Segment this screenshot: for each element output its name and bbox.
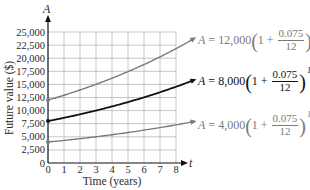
curves — [46, 37, 197, 144]
eq-principal: 12,000 — [218, 33, 251, 48]
equation-label-12000: A = 12,000(1 + 0.07512)12t — [198, 28, 310, 52]
eq-numerator: 0.075 — [278, 28, 305, 41]
eq-one-plus: 1 + — [252, 118, 268, 133]
svg-text:12,500: 12,500 — [16, 92, 45, 103]
eq-exponent: 12t — [307, 65, 310, 75]
eq-one-plus: 1 + — [252, 74, 268, 89]
eq-denominator: 12 — [285, 41, 296, 53]
y-axis-label: Future value ($) — [3, 61, 16, 135]
svg-text:22,500: 22,500 — [16, 40, 45, 51]
svg-text:17,500: 17,500 — [16, 66, 45, 77]
svg-text:10,000: 10,000 — [16, 105, 45, 116]
eq-paren: ) — [299, 70, 306, 92]
eq-var: A — [198, 33, 205, 48]
eq-paren: ( — [245, 70, 252, 92]
svg-text:5,000: 5,000 — [21, 131, 45, 142]
svg-text:3: 3 — [93, 164, 98, 175]
eq-var: A — [198, 74, 205, 89]
svg-text:7,500: 7,500 — [21, 118, 45, 129]
svg-text:0: 0 — [45, 164, 50, 175]
svg-text:2: 2 — [77, 164, 82, 175]
svg-text:4: 4 — [109, 164, 115, 175]
eq-paren: ) — [299, 114, 306, 136]
svg-text:5: 5 — [125, 164, 130, 175]
y-axis-variable: A — [42, 2, 51, 16]
svg-text:7: 7 — [157, 164, 162, 175]
eq-fraction: 0.07512 — [278, 28, 305, 52]
eq-var: A — [198, 118, 205, 133]
eq-principal: 8,000 — [218, 74, 245, 89]
grid-lines — [48, 32, 176, 163]
svg-text:20,000: 20,000 — [16, 53, 45, 64]
eq-equals: = — [208, 118, 215, 133]
eq-paren: ( — [251, 29, 258, 51]
svg-text:8: 8 — [173, 164, 178, 175]
svg-text:6: 6 — [141, 164, 146, 175]
eq-one-plus: 1 + — [258, 33, 274, 48]
eq-fraction: 0.07512 — [272, 113, 299, 137]
svg-text:2,500: 2,500 — [21, 144, 45, 155]
svg-text:25,000: 25,000 — [16, 27, 45, 38]
svg-text:0: 0 — [40, 158, 45, 169]
eq-numerator: 0.075 — [272, 113, 299, 126]
svg-text:15,000: 15,000 — [16, 79, 45, 90]
svg-text:1: 1 — [61, 164, 66, 175]
x-tick-labels: 012345678 — [45, 164, 178, 175]
x-axis-label: Time (years) — [83, 175, 142, 188]
eq-exponent: 12t — [307, 109, 310, 119]
eq-fraction: 0.07512 — [272, 69, 299, 93]
equation-label-4000: A = 4,000(1 + 0.07512)12t — [198, 113, 310, 137]
eq-paren: ( — [245, 114, 252, 136]
y-tick-labels: 02,5005,0007,50010,00012,50015,00017,500… — [16, 27, 45, 169]
eq-denominator: 12 — [279, 126, 290, 138]
eq-denominator: 12 — [279, 82, 290, 94]
equation-label-8000: A = 8,000(1 + 0.07512)12t — [198, 69, 310, 93]
eq-equals: = — [208, 33, 215, 48]
eq-paren: ) — [305, 29, 310, 51]
eq-equals: = — [208, 74, 215, 89]
eq-principal: 4,000 — [218, 118, 245, 133]
eq-numerator: 0.075 — [272, 69, 299, 82]
x-axis-variable: t — [189, 156, 193, 170]
